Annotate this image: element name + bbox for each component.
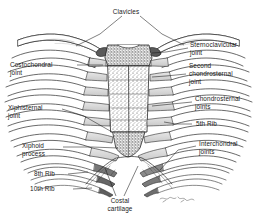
label-clavicles: Clavicles	[96, 8, 156, 16]
label-second-chondrosternal-joint: Second chondrosternal joint	[189, 62, 255, 86]
leader-costal-cartilage-right	[124, 166, 138, 196]
label-interchondral-joints: Interchondral joints	[199, 140, 257, 156]
anatomy-figure: Clavicles Costochondral joint Xiphistern…	[0, 0, 257, 219]
label-8th-rib: 8th Rib	[34, 170, 74, 178]
label-costal-cartilage: Costal cartilage	[96, 197, 144, 213]
label-xiphoid-process: Xiphoid process	[22, 142, 70, 158]
artist-signature	[160, 197, 194, 202]
costal-cartilage-2-left	[86, 72, 107, 81]
leader-10th-rib	[73, 188, 92, 189]
label-5th-rib: 5th Rib	[196, 120, 240, 128]
label-sternoclavicular-joint: Sternoclavicular joint	[190, 41, 256, 57]
label-chondrosternal-joints: Chondrosternal joints	[195, 95, 257, 111]
label-costochondral-joint: Costochondral joint	[10, 61, 78, 77]
xiphoid-process	[113, 132, 145, 157]
label-10th-rib: 10th Rib	[30, 185, 74, 193]
label-xiphisternal-joint: Xiphisternal joint	[8, 104, 68, 120]
